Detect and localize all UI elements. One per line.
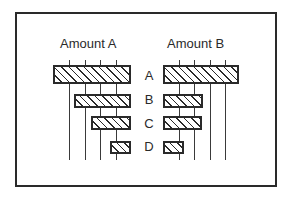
bar-amount-a-d xyxy=(110,141,131,154)
bar-amount-b-c xyxy=(163,116,202,130)
category-label-c: C xyxy=(144,117,154,131)
left-panel-title: Amount A xyxy=(60,37,116,51)
category-label-b: B xyxy=(144,93,154,107)
category-label-d: D xyxy=(144,140,154,154)
bar-amount-a-c xyxy=(91,116,131,130)
bar-amount-b-d xyxy=(163,141,184,154)
bar-amount-b-b xyxy=(163,94,203,108)
bar-amount-a-b xyxy=(74,94,131,108)
bar-amount-b-a xyxy=(163,65,239,84)
category-label-a: A xyxy=(144,69,154,83)
right-panel-title: Amount B xyxy=(167,37,224,51)
bar-amount-a-a xyxy=(53,65,131,84)
